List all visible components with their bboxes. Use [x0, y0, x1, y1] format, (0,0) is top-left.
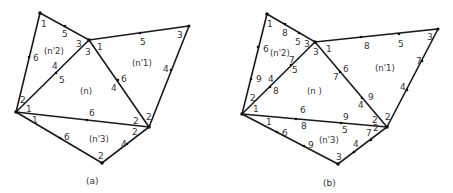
- svg-text:7: 7: [416, 56, 422, 66]
- svg-text:4: 4: [121, 139, 127, 149]
- panel-b-edges: [242, 14, 438, 164]
- svg-text:5: 5: [342, 125, 348, 135]
- svg-text:6: 6: [343, 64, 349, 74]
- svg-text:6: 6: [64, 132, 70, 142]
- svg-text:1: 1: [326, 44, 332, 54]
- svg-text:1: 1: [97, 42, 103, 52]
- element-label-n2: (n'2): [270, 48, 290, 58]
- svg-text:1: 1: [266, 117, 272, 127]
- element-label-n1: (n'1): [132, 58, 152, 68]
- svg-text:8: 8: [282, 28, 288, 38]
- svg-text:9: 9: [343, 112, 349, 122]
- svg-text:8: 8: [301, 121, 307, 131]
- element-label-n: (n ): [307, 86, 322, 96]
- svg-text:2: 2: [133, 116, 139, 126]
- svg-text:3: 3: [177, 30, 183, 40]
- svg-text:3: 3: [304, 39, 310, 49]
- panel-b: 1 8 5 3 3 1 6 7 5 9 4 8 2 1 8 5 3 7 4 6 …: [240, 12, 439, 188]
- svg-text:2: 2: [373, 123, 379, 133]
- svg-text:5: 5: [62, 29, 68, 39]
- svg-text:2: 2: [98, 151, 104, 161]
- svg-text:7: 7: [366, 128, 372, 138]
- element-label-n3: (n'3): [319, 135, 339, 145]
- svg-text:9: 9: [308, 140, 314, 150]
- svg-text:9: 9: [256, 74, 262, 84]
- svg-text:4: 4: [353, 139, 359, 149]
- element-label-n3: (n'3): [89, 134, 109, 144]
- svg-text:2: 2: [250, 93, 256, 103]
- panel-b-node-labels: 1 8 5 3 3 1 6 7 5 9 4 8 2 1 8 5 3 7 4 6 …: [250, 19, 433, 162]
- element-label-n2: (n'2): [44, 46, 64, 56]
- svg-text:2: 2: [20, 95, 26, 105]
- svg-text:6: 6: [282, 128, 288, 138]
- svg-text:8: 8: [364, 41, 370, 51]
- svg-text:6: 6: [263, 44, 269, 54]
- svg-text:1: 1: [41, 19, 47, 29]
- panel-a: 1 5 3 3 1 6 4 5 2 1 5 3 4 6 4 6 2 2 1 6 …: [14, 11, 190, 186]
- svg-text:5: 5: [398, 39, 404, 49]
- svg-text:6: 6: [33, 53, 39, 63]
- caption-b: (b): [323, 178, 336, 188]
- svg-text:6: 6: [121, 74, 127, 84]
- svg-text:3: 3: [313, 47, 319, 57]
- svg-text:1: 1: [267, 19, 273, 29]
- svg-text:7: 7: [333, 72, 339, 82]
- svg-text:4: 4: [358, 100, 364, 110]
- svg-text:1: 1: [253, 104, 259, 114]
- svg-text:5: 5: [292, 65, 298, 75]
- svg-text:8: 8: [273, 86, 279, 96]
- svg-text:5: 5: [140, 37, 146, 47]
- panel-b-nodes: [240, 12, 439, 166]
- svg-text:4: 4: [163, 64, 169, 74]
- svg-text:9: 9: [368, 92, 374, 102]
- svg-text:3: 3: [85, 47, 91, 57]
- svg-text:5: 5: [295, 37, 301, 47]
- element-label-n1: (n'1): [375, 63, 395, 73]
- svg-text:2: 2: [385, 112, 391, 122]
- svg-text:3: 3: [76, 39, 82, 49]
- svg-text:3: 3: [427, 32, 433, 42]
- svg-text:2: 2: [132, 127, 138, 137]
- svg-text:6: 6: [300, 105, 306, 115]
- finite-element-mesh-figure: 1 5 3 3 1 6 4 5 2 1 5 3 4 6 4 6 2 2 1 6 …: [0, 0, 453, 193]
- svg-text:4: 4: [268, 74, 274, 84]
- svg-text:4: 4: [111, 83, 117, 93]
- svg-text:4: 4: [400, 82, 406, 92]
- svg-text:1: 1: [32, 115, 38, 125]
- svg-text:2: 2: [146, 112, 152, 122]
- svg-text:4: 4: [52, 61, 58, 71]
- svg-text:1: 1: [26, 104, 32, 114]
- element-label-n: (n): [80, 86, 92, 96]
- svg-text:6: 6: [89, 108, 95, 118]
- caption-a: (a): [86, 176, 99, 186]
- svg-text:7: 7: [289, 55, 295, 65]
- svg-text:3: 3: [336, 152, 342, 162]
- svg-text:5: 5: [59, 75, 65, 85]
